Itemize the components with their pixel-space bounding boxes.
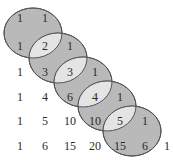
pascal-number: 15 [114, 140, 126, 152]
pascal-triangle-diagram: 11121133114641151010511615201561 [0, 0, 173, 160]
pascal-number: 1 [92, 66, 98, 78]
pascal-number: 1 [142, 115, 148, 127]
pascal-number: 15 [64, 140, 76, 152]
pascal-number: 1 [164, 140, 170, 152]
pascal-number: 2 [42, 40, 48, 52]
pascal-number: 10 [64, 115, 76, 127]
pascal-number: 1 [117, 91, 123, 103]
pascal-number: 6 [42, 140, 48, 152]
pascal-number: 6 [142, 140, 148, 152]
pascal-number: 20 [89, 140, 101, 152]
pascal-number: 1 [17, 66, 23, 78]
ellipse-layer [0, 0, 173, 160]
pascal-number: 1 [17, 91, 23, 103]
pascal-number: 5 [42, 115, 48, 127]
pascal-number: 1 [17, 140, 23, 152]
pascal-number: 4 [92, 91, 98, 103]
pascal-number: 5 [117, 115, 123, 127]
pascal-number: 1 [67, 40, 73, 52]
pascal-number: 3 [67, 66, 73, 78]
pascal-number: 4 [42, 91, 48, 103]
pascal-number: 3 [42, 66, 48, 78]
pascal-number: 1 [17, 12, 23, 24]
pascal-number: 1 [17, 115, 23, 127]
pascal-number: 1 [17, 40, 23, 52]
pascal-number: 10 [89, 115, 101, 127]
pascal-number: 1 [42, 12, 48, 24]
pascal-number: 6 [67, 91, 73, 103]
